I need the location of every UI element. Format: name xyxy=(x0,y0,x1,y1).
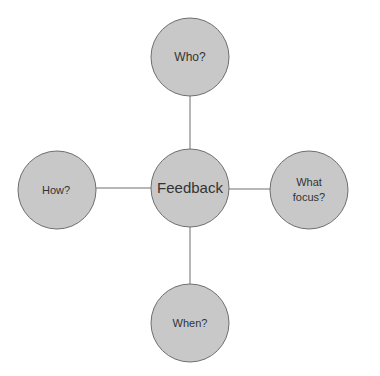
feedback-diagram: Who? Feedback What focus? How? When? xyxy=(0,0,380,376)
node-what-focus-label-line1: What xyxy=(296,176,322,188)
node-who-label: Who? xyxy=(174,50,206,64)
node-when-label: When? xyxy=(173,317,208,329)
node-who: Who? xyxy=(151,18,229,96)
node-what-focus: What focus? xyxy=(270,151,348,229)
node-how-label: How? xyxy=(42,184,70,196)
node-how: How? xyxy=(18,151,96,229)
node-when: When? xyxy=(151,284,229,362)
node-feedback: Feedback xyxy=(151,149,229,227)
node-feedback-label: Feedback xyxy=(157,179,223,196)
node-what-focus-label-line2: focus? xyxy=(293,191,325,203)
